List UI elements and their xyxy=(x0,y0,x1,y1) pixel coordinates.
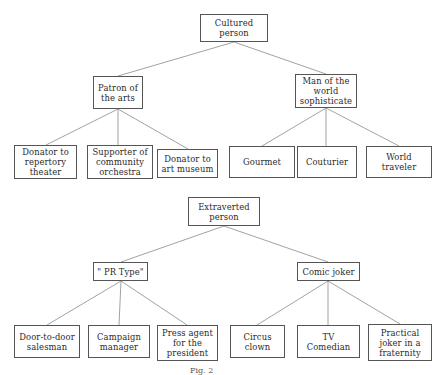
node-door-to-door-salesman: Door-to-door salesman xyxy=(14,325,80,358)
node-donator-art-museum: Donator to art museum xyxy=(157,149,218,178)
node-extraverted-person: Extraverted person xyxy=(188,197,260,226)
node-comic-joker: Comic joker xyxy=(297,262,360,281)
node-practical-joker: Practical joker in a fraternity xyxy=(368,324,432,361)
node-supporter-community-orchestra: Supporter of community orchestra xyxy=(87,145,153,179)
node-pr-type: " PR Type" xyxy=(93,262,148,281)
node-donator-repertory-theater: Donator to repertory theater xyxy=(14,145,77,179)
node-gourmet: Gourmet xyxy=(229,146,295,178)
node-man-of-the-world: Man of the world sophisticate xyxy=(295,74,357,108)
node-campaign-manager: Campaign manager xyxy=(88,325,150,358)
figure-caption: Fig. 2 xyxy=(190,366,213,375)
node-world-traveler: World traveler xyxy=(366,146,432,178)
node-press-agent: Press agent for the president xyxy=(157,325,218,361)
node-circus-clown: Circus clown xyxy=(230,325,285,358)
node-patron-of-the-arts: Patron of the arts xyxy=(93,76,143,109)
node-cultured-person: Cultured person xyxy=(200,14,268,42)
connector-lines xyxy=(0,0,433,375)
node-couturier: Couturier xyxy=(297,146,357,178)
node-tv-comedian: TV Comedian xyxy=(297,325,360,358)
